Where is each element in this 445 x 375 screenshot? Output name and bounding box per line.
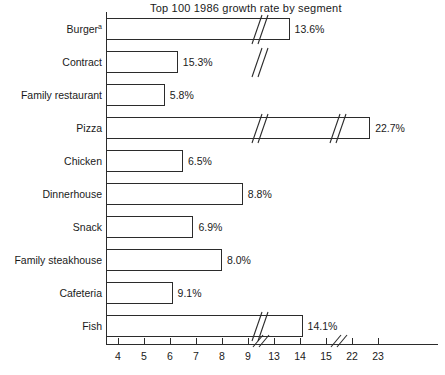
- category-label: Chicken: [64, 155, 102, 167]
- x-axis-tick: [378, 338, 379, 344]
- x-axis-tick-label: 9: [238, 350, 258, 362]
- bar: [106, 315, 303, 337]
- bar-value-label: 6.9%: [198, 221, 222, 233]
- x-axis-tick: [300, 338, 301, 344]
- bar: [106, 51, 178, 73]
- bar: [106, 282, 173, 304]
- category-label: Fish: [82, 320, 102, 332]
- chart-title: Top 100 1986 growth rate by segment: [150, 2, 410, 14]
- bar-value-label: 5.8%: [170, 89, 194, 101]
- category-label: Dinnerhouse: [42, 188, 102, 200]
- x-axis-tick: [248, 338, 249, 344]
- bar-value-label: 6.5%: [188, 155, 212, 167]
- bar-value-label: 9.1%: [178, 287, 202, 299]
- bar: [106, 249, 222, 271]
- category-label: Family restaurant: [21, 89, 102, 101]
- category-label: Family steakhouse: [14, 254, 102, 266]
- x-axis-tick: [222, 338, 223, 344]
- bar-value-label: 8.8%: [248, 188, 272, 200]
- category-label: Contract: [62, 56, 102, 68]
- axis-break-mark: [329, 334, 351, 348]
- x-axis-tick-label: 8: [212, 350, 232, 362]
- x-axis-tick: [118, 338, 119, 344]
- bar: [106, 84, 165, 106]
- x-axis-tick-label: 15: [316, 350, 336, 362]
- category-label: Pizza: [76, 122, 102, 134]
- x-axis-tick-label: 23: [368, 350, 388, 362]
- x-axis-tick-label: 4: [108, 350, 128, 362]
- x-axis-tick-label: 13: [264, 350, 284, 362]
- bar-chart: Top 100 1986 growth rate by segment Burg…: [0, 0, 445, 375]
- x-axis-tick-label: 14: [290, 350, 310, 362]
- bar: [106, 183, 243, 205]
- x-axis-tick-label: 22: [342, 350, 362, 362]
- bar-break-mark: [250, 47, 276, 78]
- axis-break-mark: [251, 334, 273, 348]
- bar: [106, 150, 183, 172]
- x-axis-tick: [170, 338, 171, 344]
- bar: [106, 216, 193, 238]
- bar-value-label: 22.7%: [375, 122, 405, 134]
- x-axis-tick: [274, 338, 275, 344]
- x-axis-tick: [144, 338, 145, 344]
- bar-value-label: 8.0%: [227, 254, 251, 266]
- x-axis-tick-label: 7: [186, 350, 206, 362]
- bar-value-label: 14.1%: [308, 320, 338, 332]
- x-axis-tick-label: 6: [160, 350, 180, 362]
- category-label: Cafeteria: [59, 287, 102, 299]
- bar-value-label: 15.3%: [183, 56, 213, 68]
- category-label: Burgera: [67, 23, 102, 35]
- footnote-marker: a: [98, 23, 102, 30]
- category-label: Snack: [73, 221, 102, 233]
- x-axis-tick: [196, 338, 197, 344]
- x-axis-tick-label: 5: [134, 350, 154, 362]
- x-axis-tick: [326, 338, 327, 344]
- x-axis-tick: [352, 338, 353, 344]
- bar-value-label: 13.6%: [295, 23, 325, 35]
- bar: [106, 117, 370, 139]
- bar: [106, 18, 290, 40]
